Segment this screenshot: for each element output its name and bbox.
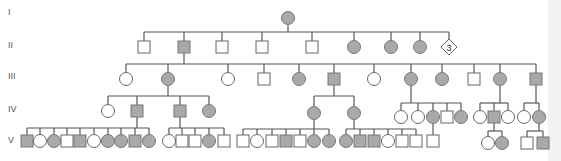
generation-label: III (8, 71, 16, 81)
male-affected-symbol (129, 135, 141, 147)
male-unaffected-symbol (176, 135, 188, 147)
male-affected-symbol (131, 105, 143, 117)
generation-label: V (8, 135, 14, 145)
female-unaffected-symbol (482, 137, 495, 150)
female-affected-symbol (323, 135, 336, 148)
female-unaffected-symbol (120, 73, 133, 86)
male-unaffected-symbol (294, 135, 306, 147)
male-affected-symbol (74, 135, 86, 147)
male-affected-symbol (21, 135, 33, 147)
generation-labels: IIIIIIIVV (8, 7, 17, 145)
male-affected-symbol (328, 73, 340, 85)
female-affected-symbol (102, 135, 115, 148)
male-unaffected-symbol (256, 41, 268, 53)
sibling-count: 3 (446, 43, 451, 53)
female-affected-symbol (308, 107, 321, 120)
female-affected-symbol (143, 135, 156, 148)
male-affected-symbol (537, 137, 549, 149)
female-affected-symbol (348, 41, 361, 54)
male-unaffected-symbol (237, 135, 249, 147)
male-unaffected-symbol (258, 73, 270, 85)
generation-label: IV (8, 104, 17, 114)
female-unaffected-symbol (412, 111, 425, 124)
female-unaffected-symbol (251, 135, 264, 148)
female-affected-symbol (533, 111, 546, 124)
female-affected-symbol (414, 41, 427, 54)
male-unaffected-symbol (216, 41, 228, 53)
male-unaffected-symbol (189, 135, 201, 147)
right-edge-shadow (548, 0, 561, 161)
female-affected-symbol (293, 73, 306, 86)
female-affected-symbol (405, 73, 418, 86)
male-affected-symbol (178, 41, 190, 53)
female-unaffected-symbol (88, 135, 101, 148)
male-unaffected-symbol (468, 73, 480, 85)
female-unaffected-symbol (368, 73, 381, 86)
male-unaffected-symbol (266, 135, 278, 147)
female-affected-symbol (385, 41, 398, 54)
female-unaffected-symbol (502, 111, 515, 124)
male-affected-symbol (368, 135, 380, 147)
pedigree-chart: IIIIIIIVV 3 (0, 0, 561, 161)
female-affected-symbol (115, 135, 128, 148)
male-affected-symbol (488, 111, 500, 123)
unknown-sex-unaffected-symbol: 3 (441, 39, 457, 55)
female-affected-symbol (308, 135, 321, 148)
female-affected-symbol (427, 111, 440, 124)
female-unaffected-symbol (474, 111, 487, 124)
female-unaffected-symbol (34, 135, 47, 148)
male-unaffected-symbol (521, 137, 533, 149)
male-affected-symbol (530, 73, 542, 85)
female-affected-symbol (494, 73, 507, 86)
female-affected-symbol (282, 12, 295, 25)
female-affected-symbol (348, 107, 361, 120)
female-unaffected-symbol (382, 135, 395, 148)
female-unaffected-symbol (163, 135, 176, 148)
female-unaffected-symbol (102, 105, 115, 118)
female-affected-symbol (436, 73, 449, 86)
male-unaffected-symbol (441, 111, 453, 123)
male-unaffected-symbol (396, 135, 408, 147)
male-unaffected-symbol (218, 135, 230, 147)
generation-label: I (8, 7, 11, 17)
male-unaffected-symbol (61, 135, 73, 147)
female-unaffected-symbol (518, 111, 531, 124)
male-unaffected-symbol (410, 135, 422, 147)
generation-label: II (8, 40, 13, 50)
female-affected-symbol (48, 135, 61, 148)
female-affected-symbol (455, 111, 468, 124)
female-affected-symbol (203, 135, 216, 148)
male-affected-symbol (174, 105, 186, 117)
male-unaffected-symbol (138, 41, 150, 53)
female-unaffected-symbol (395, 111, 408, 124)
male-unaffected-symbol (306, 41, 318, 53)
male-affected-symbol (354, 135, 366, 147)
male-unaffected-symbol (427, 135, 439, 147)
female-affected-symbol (162, 73, 175, 86)
female-unaffected-symbol (222, 73, 235, 86)
female-affected-symbol (203, 105, 216, 118)
male-affected-symbol (280, 135, 292, 147)
female-affected-symbol (496, 137, 509, 150)
female-affected-symbol (340, 135, 353, 148)
